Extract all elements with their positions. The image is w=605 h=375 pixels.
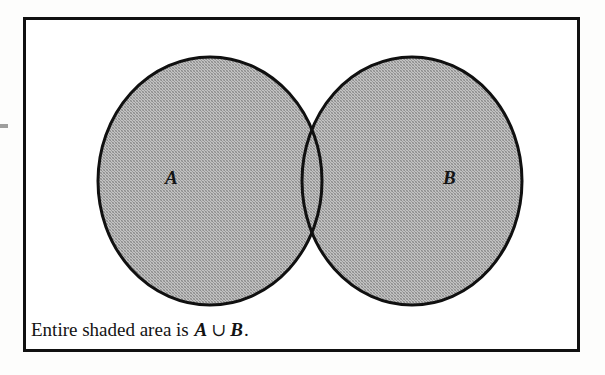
venn-canvas xyxy=(23,17,580,352)
caption-set-a: A xyxy=(193,319,208,340)
set-label-b: B xyxy=(443,168,456,187)
caption-set-b: B xyxy=(229,319,244,340)
set-label-a: A xyxy=(165,168,178,187)
venn-diagram-figure: A B Entire shaded area is A∪B. xyxy=(0,0,605,375)
caption-prefix-text: Entire shaded area is xyxy=(31,319,193,340)
figure-caption: Entire shaded area is A∪B. xyxy=(31,319,249,341)
caption-suffix-text: . xyxy=(244,319,249,340)
union-operator-icon: ∪ xyxy=(208,320,229,340)
scan-artifact-tick xyxy=(0,124,8,128)
